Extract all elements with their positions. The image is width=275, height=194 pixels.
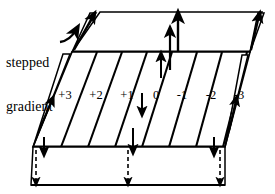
stepped-gradient-label-line2: gradient	[6, 100, 53, 115]
stepped-gradient-label-line1: stepped	[6, 56, 53, 71]
stepped-gradient-figure: stepped gradient +3 +2 +1 0 -1 -2 -3	[0, 0, 275, 194]
top-band-face	[72, 12, 262, 52]
stepped-gradient-label: stepped gradient	[6, 27, 53, 145]
tick-label-zero: 0	[147, 88, 165, 103]
tick-label-minus1: -1	[172, 88, 192, 103]
curved-pointer-path	[60, 30, 76, 42]
tick-label-plus2: +2	[85, 88, 107, 103]
tick-label-minus2: -2	[201, 88, 221, 103]
tick-label-minus3: -3	[229, 88, 249, 103]
top-band	[72, 12, 262, 52]
tick-label-plus1: +1	[116, 88, 138, 103]
curved-arrow-icon	[60, 30, 76, 42]
tick-label-plus3: +3	[54, 88, 76, 103]
